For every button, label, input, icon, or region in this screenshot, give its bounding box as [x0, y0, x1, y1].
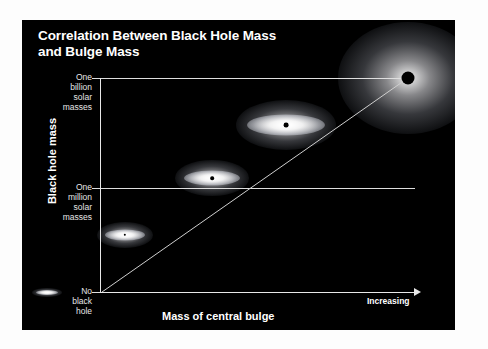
chart-title-line-2: and Bulge Mass [38, 44, 368, 60]
black-hole-dot [284, 123, 289, 128]
x-axis-line [100, 292, 418, 293]
y-axis-line [100, 78, 101, 293]
y-tick-label-one-million: Onemillionsolarmasses [30, 182, 92, 222]
chart-title: Correlation Between Black Hole Mass and … [38, 28, 368, 61]
chart-title-line-1: Correlation Between Black Hole Mass [38, 28, 368, 44]
tick-no-black-hole [92, 292, 100, 293]
y-tick-label-no-black-hole: Noblackhole [30, 286, 92, 316]
x-axis-arrow-icon [414, 288, 421, 296]
x-axis-title: Mass of central bulge [162, 310, 274, 322]
figure-canvas: Onebillionsolarmasses Onemillionsolarmas… [0, 0, 488, 349]
tick-one-billion [92, 78, 100, 79]
black-hole-dot [402, 72, 415, 85]
plot-panel: Onebillionsolarmasses Onemillionsolarmas… [22, 20, 455, 330]
correlation-trendline [22, 20, 455, 330]
x-axis-increasing-label: Increasing [367, 296, 410, 306]
y-axis-title: Black hole mass [46, 91, 58, 231]
y-tick-label-one-billion: Onebillionsolarmasses [30, 72, 92, 112]
tick-one-million [92, 188, 100, 189]
black-hole-dot [210, 176, 214, 180]
